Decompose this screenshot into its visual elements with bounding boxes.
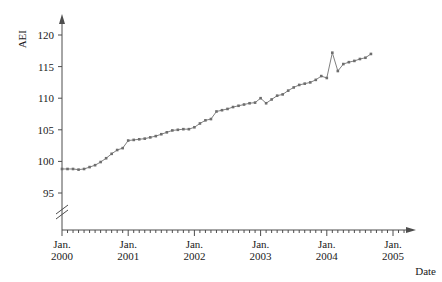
series-data-point (94, 164, 97, 167)
series-data-point (177, 129, 180, 132)
series-data-point (298, 84, 301, 87)
series-data-point (160, 133, 163, 136)
x-tick-label: 2003 (250, 250, 273, 262)
series-data-point (353, 60, 356, 63)
x-axis-title: Date (415, 265, 436, 277)
series-data-point (199, 122, 202, 125)
series-data-point (121, 147, 124, 150)
series-data-point (331, 51, 334, 54)
x-tick-label: Jan. (252, 238, 270, 250)
series-data-point (320, 75, 323, 78)
x-tick-label: 2004 (316, 250, 339, 262)
x-tick-label: 2001 (117, 250, 139, 262)
x-tick-group: Jan.2000Jan.2001Jan.2002Jan.2003Jan.2004… (51, 230, 405, 262)
series-data-point (72, 168, 75, 171)
series-data-point (210, 118, 213, 121)
series-data-point (287, 89, 290, 92)
x-tick-label: 2002 (183, 250, 205, 262)
chart-container: 95100105110115120 Jan.2000Jan.2001Jan.20… (0, 0, 442, 282)
x-tick-label: Jan. (53, 238, 71, 250)
series-data-point (77, 168, 80, 171)
series-data-point (204, 119, 207, 122)
series-data-point (342, 63, 345, 66)
x-axis-arrowhead (406, 227, 416, 233)
series-data-point (337, 70, 340, 73)
series-data-point (110, 153, 113, 156)
y-tick-label: 120 (38, 29, 55, 41)
series-data-point (265, 102, 268, 105)
line-chart: 95100105110115120 Jan.2000Jan.2001Jan.20… (0, 0, 442, 282)
series-data-point (348, 61, 351, 64)
series-data-point (237, 104, 240, 107)
series-data-point (88, 166, 91, 169)
series-data-point (166, 131, 169, 134)
x-tick-label: 2005 (382, 250, 405, 262)
series-data-point (138, 138, 141, 141)
series-data-point (83, 168, 86, 171)
series-data-point (248, 102, 251, 105)
y-tick-label: 95 (43, 187, 55, 199)
series-data-point (243, 103, 246, 106)
series-data-point (232, 106, 235, 109)
series-data-point (182, 128, 185, 131)
series-data-point (254, 101, 257, 104)
y-tick-group: 95100105110115120 (38, 29, 63, 199)
series-data-point (149, 136, 152, 139)
series-data-point (215, 110, 218, 113)
y-tick-label: 105 (38, 124, 55, 136)
series-data-point (259, 97, 262, 100)
y-axis (59, 14, 65, 230)
series-data-point (154, 135, 157, 138)
series-data-point (326, 77, 329, 80)
series-data-point (66, 168, 69, 171)
series-data-point (193, 126, 196, 129)
series-data-point (105, 157, 108, 160)
series-data-point (221, 109, 224, 112)
series-data-point (270, 98, 273, 101)
y-tick-label: 115 (38, 61, 55, 73)
series-data-point (171, 129, 174, 132)
y-axis-arrowhead (59, 14, 65, 24)
x-tick-label: 2000 (51, 250, 74, 262)
series-data-point (127, 139, 130, 142)
series-data-point (370, 53, 373, 56)
x-tick-label: Jan. (384, 238, 402, 250)
series-data-point (359, 58, 362, 61)
series-data-point (99, 161, 102, 164)
data-series-group (61, 51, 373, 171)
series-data-point (309, 81, 312, 84)
series-data-point (281, 93, 284, 96)
series-data-point (132, 139, 135, 142)
y-tick-label: 110 (38, 92, 55, 104)
y-tick-label: 100 (38, 155, 55, 167)
series-data-point (226, 108, 229, 111)
series-data-point (314, 79, 317, 82)
x-tick-label: Jan. (186, 238, 204, 250)
series-data-point (61, 168, 64, 171)
series-data-point (116, 149, 119, 152)
x-tick-label: Jan. (119, 238, 137, 250)
y-axis-title: AEI (16, 30, 28, 49)
x-tick-label: Jan. (318, 238, 336, 250)
series-data-point (364, 56, 367, 59)
series-data-point (303, 82, 306, 85)
series-data-point (188, 128, 191, 131)
series-data-point (292, 86, 295, 89)
series-data-point (143, 137, 146, 140)
series-data-point (276, 94, 279, 97)
